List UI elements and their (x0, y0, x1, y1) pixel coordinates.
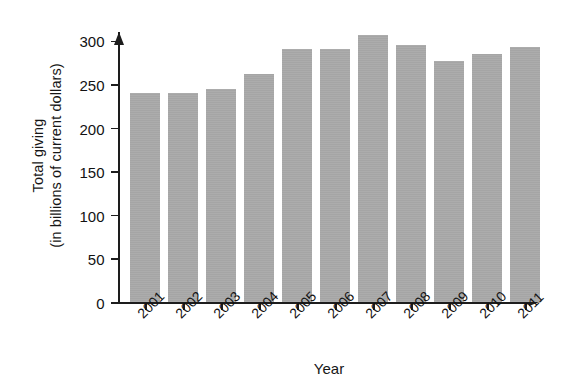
y-axis-tick-label: 150 (79, 164, 104, 181)
y-axis-tick-label: 200 (79, 120, 104, 137)
y-axis-tick-label: 100 (79, 207, 104, 224)
bars-group (118, 32, 548, 302)
y-axis-tick-label: 300 (79, 33, 104, 50)
y-axis-tick: 50 (111, 258, 119, 260)
bar (510, 47, 540, 302)
bar-chart: Total giving (in billions of current dol… (0, 0, 570, 390)
bar (320, 49, 350, 302)
y-axis-tick: 0 (111, 302, 119, 304)
x-axis-tick-labels: 2001200220032004200520062007200820092010… (118, 310, 548, 360)
y-axis-tick: 150 (111, 171, 119, 173)
y-axis-tick-label: 50 (88, 251, 105, 268)
plot-area: 050100150200250300 (118, 20, 548, 302)
y-axis-title-line2: (in billions of current dollars) (47, 63, 65, 248)
y-axis-tick: 200 (111, 128, 119, 130)
y-axis-tick-label: 0 (96, 294, 104, 311)
x-axis-title: Year (0, 360, 570, 377)
bar (358, 35, 388, 302)
y-axis-tick-label: 250 (79, 77, 104, 94)
bar (244, 74, 274, 302)
y-axis-tick: 250 (111, 84, 119, 86)
y-axis-title-line1: Total giving (30, 63, 48, 248)
bar (434, 61, 464, 302)
bar (396, 45, 426, 302)
bar (472, 54, 502, 302)
y-axis-tick: 300 (111, 41, 119, 43)
bar (282, 49, 312, 302)
bar (206, 89, 236, 302)
bar (168, 93, 198, 302)
bar (130, 93, 160, 302)
y-axis-title: Total giving (in billions of current dol… (14, 0, 80, 310)
y-axis-tick: 100 (111, 215, 119, 217)
